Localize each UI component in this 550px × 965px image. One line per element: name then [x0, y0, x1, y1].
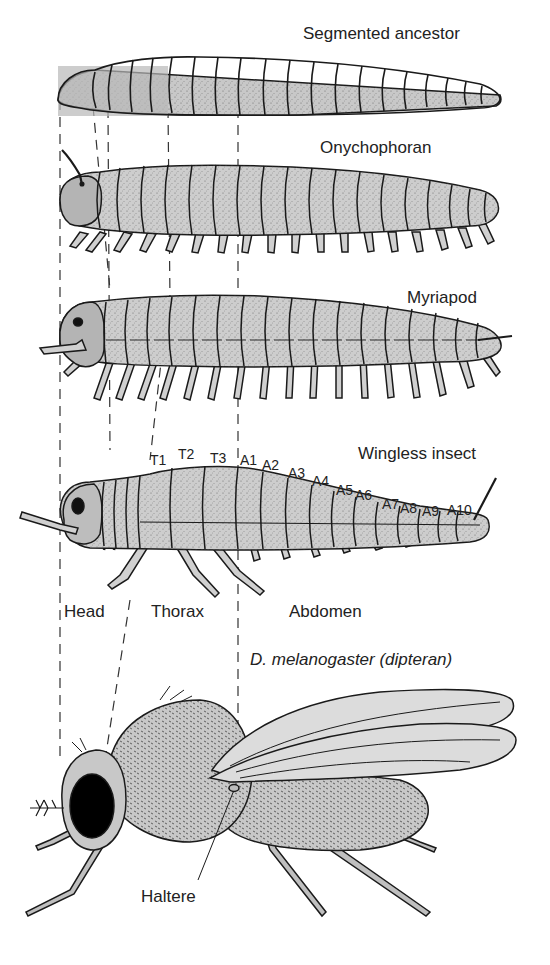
- drosophila-drawing: [26, 686, 516, 916]
- segment-label-a10: A10: [447, 502, 472, 518]
- region-label-head: Head: [64, 602, 105, 622]
- segment-label-a8: A8: [400, 500, 417, 516]
- label-segmented-ancestor: Segmented ancestor: [303, 24, 460, 44]
- label-drosophila: D. melanogaster (dipteran): [250, 650, 452, 670]
- wingless-insect-drawing: [20, 466, 496, 597]
- segment-label-a2: A2: [262, 457, 279, 473]
- label-wingless-insect: Wingless insect: [358, 444, 476, 464]
- segment-label-a6: A6: [355, 487, 372, 503]
- segment-label-a7: A7: [382, 496, 399, 512]
- label-myriapod: Myriapod: [407, 288, 477, 308]
- segment-label-a3: A3: [288, 465, 305, 481]
- myriapod-drawing: [40, 295, 512, 400]
- region-label-abdomen: Abdomen: [289, 602, 362, 622]
- segment-label-t3: T3: [210, 450, 226, 466]
- label-onychophoran: Onychophoran: [320, 138, 432, 158]
- onychophoran-drawing: [60, 150, 498, 253]
- figure-artwork: [0, 0, 550, 965]
- segment-label-t1: T1: [150, 452, 166, 468]
- segment-label-a9: A9: [422, 503, 439, 519]
- segment-label-a1: A1: [240, 452, 257, 468]
- segment-label-a4: A4: [312, 473, 329, 489]
- label-haltere: Haltere: [141, 887, 196, 907]
- segment-label-a5: A5: [336, 482, 353, 498]
- region-label-thorax: Thorax: [151, 602, 204, 622]
- segmented-ancestor-drawing: [58, 57, 501, 116]
- segment-label-t2: T2: [178, 446, 194, 462]
